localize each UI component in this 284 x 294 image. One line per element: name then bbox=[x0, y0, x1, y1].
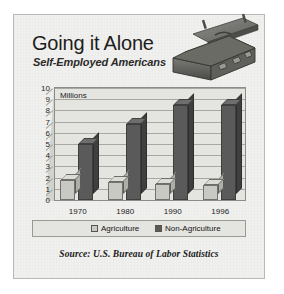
x-axis-tick-label: 1970 bbox=[69, 207, 87, 216]
x-axis-tick-label: 1980 bbox=[116, 207, 134, 216]
page-title: Going it Alone bbox=[32, 32, 154, 55]
bar-front bbox=[60, 180, 75, 200]
legend-label: Agriculture bbox=[101, 224, 139, 233]
page-subtitle: Self-Employed Americans bbox=[33, 56, 166, 68]
bar-front bbox=[203, 185, 218, 200]
legend-item-agriculture[interactable]: Agriculture bbox=[91, 224, 139, 233]
legend-swatch-icon bbox=[91, 225, 98, 232]
chart-page: Going it Alone Self-Employed Americans bbox=[0, 0, 284, 294]
legend-swatch-icon bbox=[155, 225, 162, 232]
bar-front bbox=[108, 182, 123, 200]
bar-side bbox=[141, 112, 147, 194]
chart-panel: Going it Alone Self-Employed Americans bbox=[13, 14, 265, 279]
bar-agriculture-1996 bbox=[203, 185, 218, 200]
bar-agriculture-1970 bbox=[60, 180, 75, 200]
bar-agriculture-1980 bbox=[108, 182, 123, 200]
source-note: Source: U.S. Bureau of Labor Statistics bbox=[14, 249, 264, 259]
x-axis-tick-label: 1990 bbox=[164, 207, 182, 216]
legend-label: Non-Agriculture bbox=[165, 224, 221, 233]
chart-legend: AgricultureNon-Agriculture bbox=[32, 220, 246, 237]
bar-agriculture-1990 bbox=[155, 184, 170, 200]
bar-front bbox=[155, 184, 170, 200]
gridline bbox=[55, 99, 245, 100]
gridline bbox=[55, 88, 245, 89]
bar-side bbox=[236, 93, 242, 194]
plot-area: Millions bbox=[54, 87, 246, 201]
x-axis-tick-label: 1996 bbox=[211, 207, 229, 216]
gridline bbox=[55, 110, 245, 111]
gridline bbox=[55, 122, 245, 123]
legend-item-non-agriculture[interactable]: Non-Agriculture bbox=[155, 224, 221, 233]
chart-plot-wrapper: 012345678910 Millions 1970198019901996 bbox=[28, 85, 250, 215]
y-axis-tick-label: 0 bbox=[46, 196, 50, 205]
briefcase-icon bbox=[163, 12, 261, 88]
x-axis: 1970198019901996 bbox=[54, 207, 246, 219]
gridline bbox=[55, 133, 245, 134]
bar-side bbox=[188, 93, 194, 194]
